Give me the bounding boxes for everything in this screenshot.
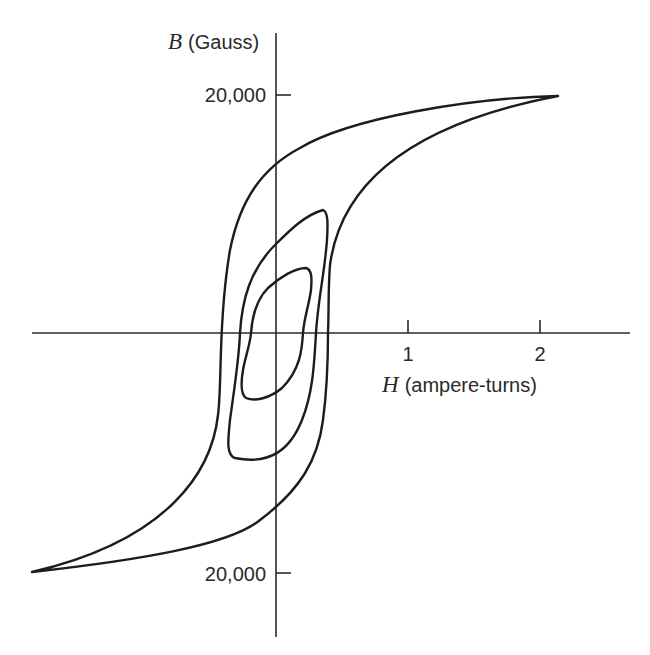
middle-hysteresis-loop bbox=[228, 210, 327, 460]
x-axis-label: H(ampere-turns) bbox=[381, 372, 537, 397]
x-tick-label-1: 1 bbox=[402, 343, 413, 365]
hysteresis-chart: B(Gauss) 20,000 20,000 1 2 H(ampere-turn… bbox=[0, 0, 650, 655]
y-axis-label: B(Gauss) bbox=[168, 29, 259, 54]
x-axis-unit: (ampere-turns) bbox=[405, 374, 537, 396]
x-tick-label-2: 2 bbox=[534, 343, 545, 365]
outer-hysteresis-loop bbox=[32, 96, 558, 572]
y-tick-label-bottom: 20,000 bbox=[205, 563, 266, 585]
y-axis-unit: (Gauss) bbox=[188, 31, 259, 53]
y-tick-label-top: 20,000 bbox=[205, 84, 266, 106]
x-axis-symbol: H bbox=[381, 372, 400, 397]
y-axis-symbol: B bbox=[168, 29, 182, 54]
